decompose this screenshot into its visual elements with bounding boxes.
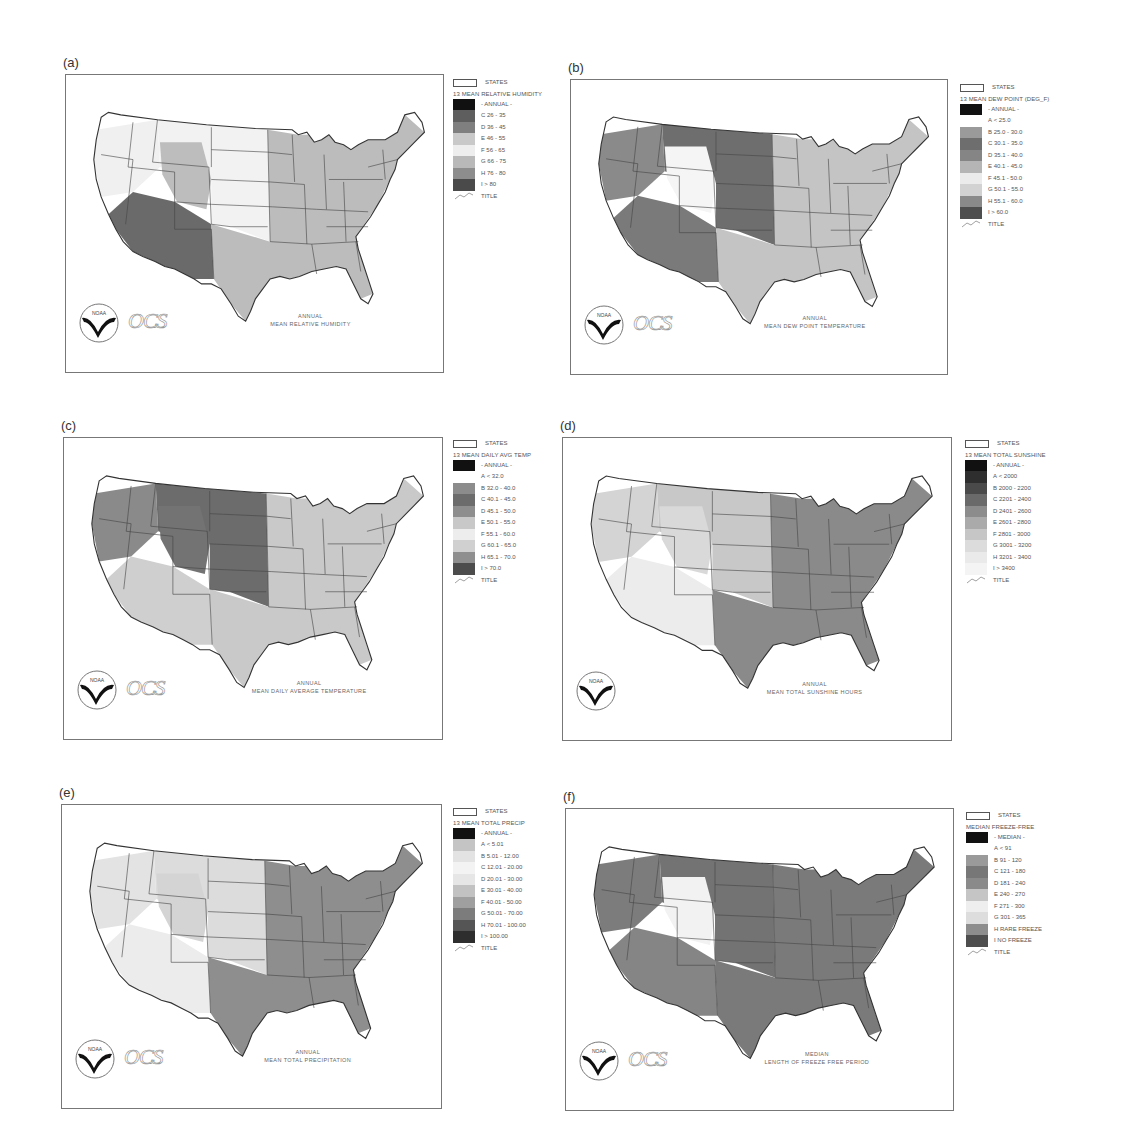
legend-swatch xyxy=(453,133,475,145)
legend-class-range: 2601 - 2800 xyxy=(999,517,1031,529)
legend-period-row: - MEDIAN - xyxy=(966,832,1042,844)
legend-swatch xyxy=(960,115,982,127)
panel-label-f: (f) xyxy=(563,789,575,804)
legend-class-row: D 35.1 - 40.0 xyxy=(960,150,1049,162)
legend-swatch xyxy=(453,540,475,552)
legend-class-range: 70.01 - 100.00 xyxy=(487,920,526,932)
legend-class-code: I xyxy=(994,935,996,947)
legend-class-row: H 65.1 - 70.0 xyxy=(453,552,531,564)
legend-class-code: A xyxy=(988,115,992,127)
legend-swatch xyxy=(453,99,475,111)
legend-swatch xyxy=(453,494,475,506)
us-map xyxy=(566,809,955,1112)
legend-class-code: B xyxy=(481,483,485,495)
legend-class-range: < 2000 xyxy=(999,471,1018,483)
legend-heading: 13 MEAN DAILY AVG TEMP xyxy=(453,450,531,460)
title-line-icon xyxy=(966,948,988,956)
legend-class-range: 30.1 - 35.0 xyxy=(994,138,1023,150)
legend-swatch xyxy=(960,138,982,150)
legend-class-range: 46 - 55 xyxy=(487,133,506,145)
legend-swatch xyxy=(453,179,475,191)
legend-swatch xyxy=(453,874,475,886)
map-caption: ANNUALMEAN DEW POINT TEMPERATURE xyxy=(730,314,900,330)
legend-states-row: STATES xyxy=(453,77,542,89)
legend-class-range: 121 - 180 xyxy=(1000,866,1025,878)
legend-states-row: STATES xyxy=(966,810,1042,822)
legend-class-code: I xyxy=(481,931,483,943)
legend-class-row: G 50.01 - 70.00 xyxy=(453,908,526,920)
legend-class-code: E xyxy=(993,517,997,529)
legend-class-row: A < 25.0 xyxy=(960,115,1049,127)
svg-text:NOAA: NOAA xyxy=(88,1046,103,1052)
legend-class-row: E 30.01 - 40.00 xyxy=(453,885,526,897)
legend-class-code: E xyxy=(994,889,998,901)
svg-text:NOAA: NOAA xyxy=(92,310,107,316)
ocs-wordmark: OCS xyxy=(128,308,167,334)
legend-title-row: TITLE xyxy=(960,219,1049,231)
legend-class-code: A xyxy=(993,471,997,483)
legend-swatch xyxy=(960,150,982,162)
legend-class-range: 60.1 - 65.0 xyxy=(487,540,516,552)
legend-swatch xyxy=(965,494,987,506)
legend-period-row: - ANNUAL - xyxy=(453,460,531,472)
legend-class-row: C 121 - 180 xyxy=(966,866,1042,878)
legend-heading: 13 MEAN DEW POINT (DEG_F) xyxy=(960,94,1049,104)
legend-class-row: G 301 - 365 xyxy=(966,912,1042,924)
noaa-logo-icon: NOAA xyxy=(76,669,118,715)
map-frame-d: NOAAANNUALMEAN TOTAL SUNSHINE HOURS xyxy=(562,437,952,741)
legend-class-range: 2201 - 2400 xyxy=(999,494,1031,506)
title-line-icon xyxy=(965,576,987,584)
legend-swatch xyxy=(960,184,982,196)
legend-class-code: B xyxy=(481,851,485,863)
legend-class-code: H xyxy=(994,924,998,936)
legend-class-code: I xyxy=(988,207,990,219)
legend-swatch xyxy=(966,912,988,924)
legend-class-range: 66 - 75 xyxy=(487,156,506,168)
title-line-icon xyxy=(453,576,475,584)
legend-swatch xyxy=(965,540,987,552)
legend-class-range: 76 - 80 xyxy=(487,168,506,180)
legend-swatch xyxy=(453,471,475,483)
legend-class-row: D 36 - 45 xyxy=(453,122,542,134)
legend-title-row: TITLE xyxy=(965,575,1046,587)
legend-class-code: C xyxy=(481,862,485,874)
legend-class-row: E 2601 - 2800 xyxy=(965,517,1046,529)
legend-class-range: 55.1 - 60.0 xyxy=(994,196,1023,208)
legend-swatch xyxy=(453,122,475,134)
legend-swatch xyxy=(965,563,987,575)
legend-class-code: F xyxy=(481,897,485,909)
map-legend-b: STATES13 MEAN DEW POINT (DEG_F)- ANNUAL … xyxy=(960,82,1049,230)
map-legend-e: STATES13 MEAN TOTAL PRECIP- ANNUAL -A < … xyxy=(453,806,526,954)
legend-class-range: > 80 xyxy=(484,179,496,191)
legend-class-row: C 12.01 - 20.00 xyxy=(453,862,526,874)
legend-class-row: E 40.1 - 45.0 xyxy=(960,161,1049,173)
legend-class-code: I xyxy=(993,563,995,575)
ocs-wordmark: OCS xyxy=(633,310,672,336)
legend-swatch xyxy=(966,878,988,890)
ocs-wordmark: OCS xyxy=(628,1046,667,1072)
legend-swatch xyxy=(966,843,988,855)
legend-class-code: D xyxy=(481,874,485,886)
legend-class-code: B xyxy=(993,483,997,495)
svg-text:NOAA: NOAA xyxy=(597,312,612,318)
ocs-wordmark: OCS xyxy=(126,675,165,701)
noaa-logo-icon: NOAA xyxy=(583,304,625,350)
map-legend-f: STATESMEDIAN FREEZE-FREE- MEDIAN -A < 91… xyxy=(966,810,1042,958)
map-frame-f: NOAAOCSMEDIANLENGTH OF FREEZE FREE PERIO… xyxy=(565,808,954,1111)
legend-swatch xyxy=(966,866,988,878)
us-map xyxy=(563,438,953,742)
legend-class-code: D xyxy=(993,506,997,518)
legend-swatch xyxy=(453,156,475,168)
legend-swatch xyxy=(960,173,982,185)
legend-heading: 13 MEAN RELATIVE HUMIDITY xyxy=(453,89,542,99)
legend-class-range: 55.1 - 60.0 xyxy=(486,529,515,541)
legend-class-range: 45.1 - 50.0 xyxy=(487,506,516,518)
legend-class-code: F xyxy=(481,529,485,541)
legend-class-row: C 30.1 - 35.0 xyxy=(960,138,1049,150)
panel-label-a: (a) xyxy=(63,55,79,70)
svg-text:NOAA: NOAA xyxy=(592,1048,607,1054)
legend-swatch xyxy=(453,862,475,874)
caption-line1: ANNUAL xyxy=(730,314,900,322)
legend-class-range: < 5.01 xyxy=(487,839,504,851)
legend-class-row: B 5.01 - 12.00 xyxy=(453,851,526,863)
